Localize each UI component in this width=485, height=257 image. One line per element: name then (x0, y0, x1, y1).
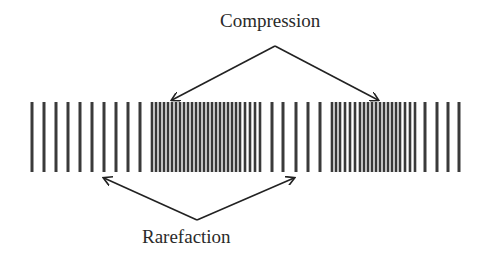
compression-arrow-left (172, 46, 275, 100)
compression-arrow-right (275, 46, 378, 100)
arrows (0, 0, 485, 257)
rarefaction-arrow-left (104, 178, 197, 220)
rarefaction-arrow-right (197, 178, 294, 220)
wave-diagram: Compression Rarefaction (0, 0, 485, 257)
